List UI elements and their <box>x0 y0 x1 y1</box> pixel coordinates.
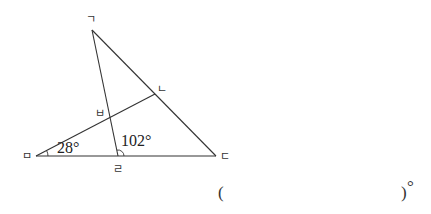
geometry-diagram: ㄱ ㄴ ㄷ ㄹ ㅁ ㅂ 28° 102° ( ) ° <box>0 0 431 214</box>
answer-degree-unit: ° <box>407 177 414 196</box>
label-point-n: ㄴ <box>157 83 167 96</box>
label-point-d: ㄷ <box>220 150 230 163</box>
angle-arc-m <box>47 151 48 157</box>
segment-g-d <box>92 30 216 156</box>
label-point-r: ㄹ <box>113 163 123 176</box>
angle-label-r: 102° <box>121 132 151 149</box>
segment-g-r <box>92 30 118 156</box>
answer-close-paren: ) <box>401 183 407 202</box>
label-point-m: ㅁ <box>22 150 32 163</box>
angle-label-m: 28° <box>57 139 79 156</box>
label-point-b: ㅂ <box>95 107 105 120</box>
label-point-g: ㄱ <box>86 13 96 26</box>
answer-open-paren: ( <box>218 183 224 202</box>
